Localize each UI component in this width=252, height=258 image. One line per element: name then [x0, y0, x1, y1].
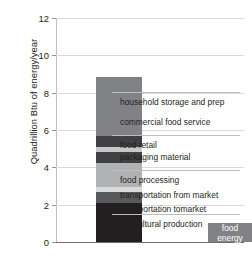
legend: household storage and prepcommercial foo… [120, 0, 252, 258]
tick-mark [52, 93, 56, 94]
legend-item-agricultural-production[interactable]: agricultural production [120, 219, 202, 230]
legend-leader-line [112, 92, 240, 93]
tick-mark [52, 205, 56, 206]
legend-item-transportation-from-market[interactable]: transportation from market [120, 190, 218, 201]
tick-mark [52, 167, 56, 168]
y-tick-label: 12 [39, 13, 49, 24]
tick-mark [52, 55, 56, 56]
tick-mark [52, 18, 56, 19]
legend-item-food-processing[interactable]: food processing [120, 175, 179, 186]
y-tick-label: 2 [44, 199, 49, 210]
y-tick-label: 8 [44, 87, 49, 98]
legend-leader-line [112, 135, 240, 136]
y-tick-label: 6 [44, 125, 49, 136]
y-axis-title: Quadrillion Btu of energy/year [28, 2, 39, 202]
legend-item-commercial-food-service[interactable]: commercial food service [120, 117, 210, 128]
legend-item-packaging-material[interactable]: packaging material [120, 152, 190, 163]
tick-mark [52, 242, 56, 243]
tick-mark [52, 130, 56, 131]
legend-leader-line [112, 170, 240, 171]
y-tick-label: 0 [44, 237, 49, 248]
legend-item-household-storage-and-prep[interactable]: household storage and prep [120, 97, 224, 108]
legend-item-food-retail[interactable]: food retail [120, 140, 157, 151]
y-tick-label: 10 [39, 50, 49, 61]
legend-leader-line [112, 214, 240, 215]
chart-container: Quadrillion Btu of energy/year 121086420… [0, 0, 252, 258]
y-tick-label: 4 [44, 162, 49, 173]
